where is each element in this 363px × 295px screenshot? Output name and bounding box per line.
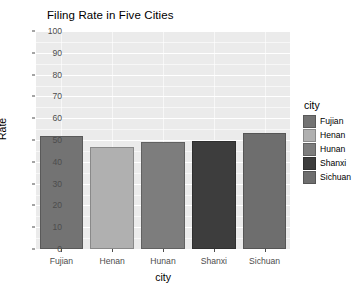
y-tick-label: 10 <box>52 222 62 232</box>
y-tick-mark <box>32 74 35 75</box>
y-tick-label: 30 <box>52 179 62 189</box>
x-tick-label: Sichuan <box>249 256 280 266</box>
legend-swatch-icon <box>303 171 316 184</box>
x-tick-mark <box>163 249 164 252</box>
legend-item-label: Hunan <box>320 144 345 154</box>
legend-items: FujianHenanHunanShanxiSichuan <box>303 114 351 184</box>
legend-item-label: Sichuan <box>320 172 351 182</box>
y-tick-label: 100 <box>48 26 62 36</box>
y-tick-mark <box>32 31 35 32</box>
legend-swatch-icon <box>303 115 316 128</box>
plot-panel <box>36 31 290 249</box>
x-tick-mark <box>112 249 113 252</box>
legend-item-label: Fujian <box>320 116 343 126</box>
y-tick-mark <box>32 205 35 206</box>
legend-swatch-icon <box>303 143 316 156</box>
y-tick-mark <box>32 249 35 250</box>
y-tick-mark <box>32 52 35 53</box>
y-tick-mark <box>32 227 35 228</box>
y-tick-label: 70 <box>52 91 62 101</box>
x-tick-label: Henan <box>100 256 125 266</box>
x-tick-label: Shanxi <box>201 256 227 266</box>
legend-swatch-icon <box>303 129 316 142</box>
legend-item-label: Henan <box>320 130 345 140</box>
y-tick-mark <box>32 140 35 141</box>
x-tick-mark <box>61 249 62 252</box>
bar-shanxi <box>192 141 235 249</box>
legend-title: city <box>303 99 351 111</box>
bar-chart: Filing Rate in Five Cities Rate 01020304… <box>0 0 363 295</box>
legend-item: Fujian <box>303 114 351 128</box>
x-tick-mark <box>214 249 215 252</box>
y-tick-label: 90 <box>52 48 62 58</box>
x-tick-label: Hunan <box>150 256 175 266</box>
x-tick-label: Fujian <box>50 256 73 266</box>
legend-item: Henan <box>303 128 351 142</box>
x-axis-title: city <box>155 271 171 283</box>
y-tick-mark <box>32 118 35 119</box>
x-tick-mark <box>265 249 266 252</box>
bar-henan <box>90 147 133 249</box>
legend-item-label: Shanxi <box>320 158 346 168</box>
chart-title: Filing Rate in Five Cities <box>47 9 174 21</box>
y-tick-label: 40 <box>52 157 62 167</box>
y-tick-mark <box>32 161 35 162</box>
y-axis-title: Rate <box>0 118 8 140</box>
bar-sichuan <box>243 133 286 249</box>
bar-series <box>36 31 290 249</box>
legend: city FujianHenanHunanShanxiSichuan <box>303 99 351 184</box>
y-tick-mark <box>32 96 35 97</box>
legend-item: Shanxi <box>303 156 351 170</box>
legend-item: Hunan <box>303 142 351 156</box>
legend-swatch-icon <box>303 157 316 170</box>
y-tick-label: 80 <box>52 70 62 80</box>
y-tick-label: 60 <box>52 113 62 123</box>
y-tick-label: 20 <box>52 200 62 210</box>
bar-hunan <box>141 142 184 249</box>
y-tick-label: 50 <box>52 135 62 145</box>
legend-item: Sichuan <box>303 170 351 184</box>
y-tick-mark <box>32 183 35 184</box>
